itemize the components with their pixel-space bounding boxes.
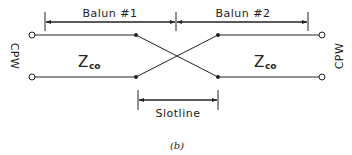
right-bottom-terminal-icon — [319, 74, 325, 80]
left-top-terminal-icon — [29, 32, 35, 38]
balun2-label: Balun #2 — [216, 7, 271, 20]
left-impedance-label: Z co — [78, 53, 101, 71]
right-cpw-label: CPW — [333, 43, 346, 70]
balun-diagram: Balun #1 Balun #2 CPW CPW Z co Z co — [0, 0, 352, 155]
left-bottom-terminal-icon — [29, 74, 35, 80]
right-impedance-label: Z co — [254, 53, 277, 71]
svg-text:co: co — [265, 61, 277, 71]
left-cpw-label: CPW — [8, 43, 21, 70]
figure-caption: (b) — [170, 140, 184, 151]
balun1-label: Balun #1 — [83, 7, 138, 20]
slotline-label: Slotline — [156, 107, 201, 120]
svg-text:Z: Z — [78, 53, 88, 71]
svg-text:co: co — [89, 61, 101, 71]
right-top-terminal-icon — [319, 32, 325, 38]
svg-text:Z: Z — [254, 53, 264, 71]
